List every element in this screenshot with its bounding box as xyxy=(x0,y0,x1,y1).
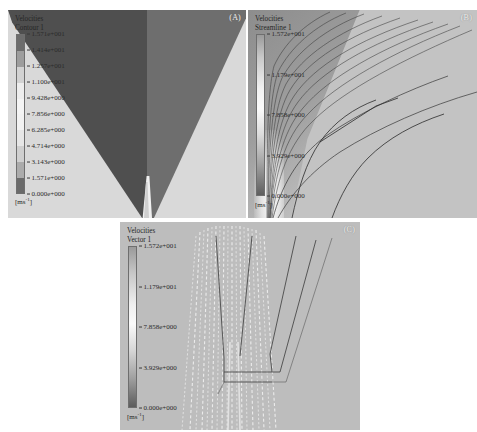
panel-a-contour: Velocities Contour 1 1.571e+0011.414e+00… xyxy=(8,10,246,218)
legend-band xyxy=(17,83,24,99)
legend-units: [ms-1] xyxy=(127,412,144,422)
legend-body: 1.571e+0011.414e+0011.257e+0011.100e+001… xyxy=(14,34,44,199)
legend-title-quantity: Velocities xyxy=(127,227,155,236)
panel-b-legend: Velocities Streamline 1 1.572e+0011.179e… xyxy=(254,15,292,204)
legend-colorbar xyxy=(16,34,25,194)
panel-a-letter: (A) xyxy=(229,13,241,22)
legend-title-quantity: Velocities xyxy=(255,15,292,24)
contour-right-wedge xyxy=(147,10,246,218)
legend-band xyxy=(17,162,24,178)
legend-band xyxy=(17,67,24,83)
legend-tick-label: 6.285e+000 xyxy=(27,126,65,135)
legend-tick-label: 4.714e+000 xyxy=(27,142,65,151)
legend-tick-label: 1.100e+001 xyxy=(27,78,65,87)
legend-tick-label: 3.929e+000 xyxy=(139,363,177,372)
legend-band xyxy=(17,178,24,194)
legend-tick-label: 7.856e+000 xyxy=(27,110,65,119)
legend-tick-label: 1.179e+001 xyxy=(139,282,177,291)
legend-tick-label: 3.143e+000 xyxy=(27,158,65,167)
legend-band xyxy=(17,99,24,115)
legend-colorbar xyxy=(128,246,137,408)
legend-band xyxy=(17,51,24,67)
legend-tick-list: 1.572e+0011.179e+0017.858e+0003.929e+000… xyxy=(267,34,292,196)
legend-body: 1.572e+0011.179e+0017.858e+0003.929e+000… xyxy=(126,246,155,416)
legend-colorbar xyxy=(256,34,265,196)
panel-c-vector: Velocities Vector 1 1.572e+0011.179e+001… xyxy=(120,222,360,430)
legend-band xyxy=(17,114,24,130)
legend-band xyxy=(17,130,24,146)
legend-tick-label: 7.858e+000 xyxy=(139,323,177,332)
legend-tick-list: 1.571e+0011.414e+0011.257e+0011.100e+001… xyxy=(27,34,44,194)
panel-b-letter: (B) xyxy=(461,13,472,22)
legend-tick-label: 0.000e+000 xyxy=(27,190,65,199)
panel-b-streamline: Velocities Streamline 1 1.572e+0011.179e… xyxy=(248,10,477,218)
legend-tick-label: 0.000e+000 xyxy=(267,192,305,201)
legend-tick-label: 1.572e+001 xyxy=(139,242,177,251)
legend-units-text: [ms xyxy=(255,202,266,210)
legend-units-bracket: ] xyxy=(30,199,32,207)
legend-tick-list: 1.572e+0011.179e+0017.858e+0003.929e+000… xyxy=(139,246,155,408)
legend-tick-label: 1.571e+001 xyxy=(27,30,65,39)
legend-title-quantity: Velocities xyxy=(15,15,44,24)
legend-units-text: [ms xyxy=(15,199,26,207)
panel-c-letter: (C) xyxy=(344,225,355,234)
legend-tick-label: 9.428e+000 xyxy=(27,94,65,103)
legend-units-bracket: ] xyxy=(270,202,272,210)
legend-tick-label: 3.929e+000 xyxy=(267,151,305,160)
panel-a-legend: Velocities Contour 1 1.571e+0011.414e+00… xyxy=(14,15,44,199)
legend-tick-label: 1.179e+001 xyxy=(267,70,305,79)
legend-body: 1.572e+0011.179e+0017.858e+0003.929e+000… xyxy=(254,34,292,204)
legend-band xyxy=(17,146,24,162)
legend-units: [ms-1] xyxy=(255,200,272,210)
legend-units: [ms-1] xyxy=(15,197,32,207)
legend-units-bracket: ] xyxy=(142,414,144,422)
legend-tick-label: 1.257e+001 xyxy=(27,62,65,71)
legend-tick-label: 7.858e+000 xyxy=(267,111,305,120)
panel-c-legend: Velocities Vector 1 1.572e+0011.179e+001… xyxy=(126,227,155,416)
legend-tick-label: 0.000e+000 xyxy=(139,404,177,413)
legend-tick-label: 1.571e+000 xyxy=(27,174,65,183)
legend-band xyxy=(17,35,24,51)
legend-tick-label: 1.414e+001 xyxy=(27,46,65,55)
legend-units-text: [ms xyxy=(127,414,138,422)
legend-tick-label: 1.572e+001 xyxy=(267,30,305,39)
